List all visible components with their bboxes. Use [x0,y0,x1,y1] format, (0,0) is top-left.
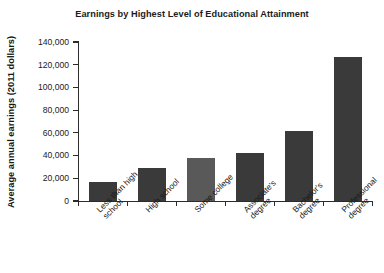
y-tick-label: 120,000 [0,60,69,70]
y-tick-label: 100,000 [0,82,69,92]
y-tick-label: 80,000 [0,105,69,115]
x-tick-mark [225,201,226,206]
y-tick-label: 40,000 [0,150,69,160]
y-tick-label: 140,000 [0,37,69,47]
bar-chart: Earnings by Highest Level of Educational… [0,0,384,273]
chart-title: Earnings by Highest Level of Educational… [0,9,384,19]
y-tick-label: 0 [0,196,69,206]
x-tick-mark [78,201,79,206]
x-tick-mark [176,201,177,206]
y-tick-label: 20,000 [0,173,69,183]
bar [334,57,362,201]
y-tick-label: 60,000 [0,128,69,138]
